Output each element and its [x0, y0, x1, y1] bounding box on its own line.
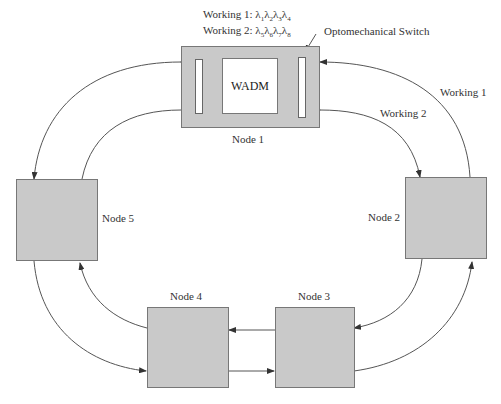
node-3[interactable] — [275, 307, 355, 388]
wavelength-list: λ1λ2λ3λ4 — [255, 8, 290, 20]
optomechanical-switch-right[interactable] — [298, 57, 306, 118]
working1-ring-label: Working 1 — [440, 86, 486, 98]
working2-ring-label: Working 2 — [380, 107, 426, 119]
node-2-label: Node 2 — [368, 211, 400, 223]
node-3-label: Node 3 — [298, 290, 330, 302]
optomechanical-switch-left[interactable] — [195, 59, 203, 114]
node-1-label: Node 1 — [232, 133, 264, 145]
node-4-label: Node 4 — [170, 290, 202, 302]
node-4[interactable] — [147, 307, 229, 388]
wadm-block[interactable]: WADM — [222, 58, 278, 114]
wavelength-list: λ5λ6λ7λ8 — [255, 24, 290, 36]
node-5[interactable] — [16, 179, 98, 261]
legend-working2: Working 2: λ5λ6λ7λ8 — [203, 24, 291, 39]
node-2[interactable] — [405, 177, 487, 259]
node-5-label: Node 5 — [102, 212, 134, 224]
legend-working1: Working 1: λ1λ2λ3λ4 — [203, 8, 291, 23]
switch-label: Optomechanical Switch — [324, 25, 429, 37]
